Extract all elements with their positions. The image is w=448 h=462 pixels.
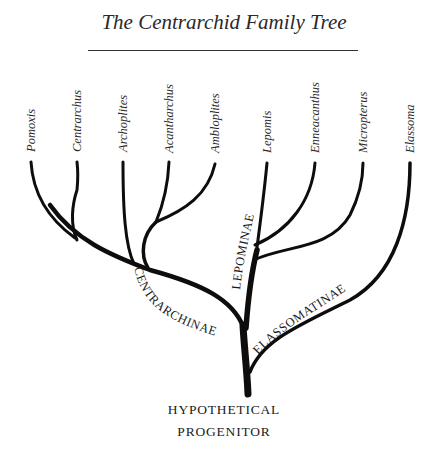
- branch-archoplites: [123, 162, 134, 264]
- subfamily-labels: CENTRARCHINAE LEPOMINAE ELASSOMATINAE: [131, 212, 348, 357]
- taxon-label-archoplites: Archoplites: [116, 95, 130, 153]
- root-label-line1: HYPOTHETICAL: [0, 402, 448, 418]
- lepominae-stem: [246, 250, 257, 328]
- tree-branches: [31, 162, 410, 394]
- taxon-label-acantharchus: Acantharchus: [162, 84, 176, 154]
- taxon-label-micropterus: Micropterus: [356, 92, 370, 154]
- taxon-label-enneacanthus: Enneacanthus: [308, 82, 322, 154]
- taxon-label-centrarchus: Centrarchus: [70, 90, 84, 152]
- trunk-branch: [243, 325, 248, 394]
- branch-acantharchus: [156, 162, 169, 222]
- branch-centrarchus: [72, 162, 77, 240]
- subfamily-label-elassomatinae: ELASSOMATINAE: [250, 281, 348, 357]
- root-label-line2: PROGENITOR: [0, 424, 448, 440]
- taxon-labels: Pomoxis Centrarchus Archoplites Acanthar…: [24, 82, 417, 154]
- phylogenetic-tree: Pomoxis Centrarchus Archoplites Acanthar…: [0, 0, 448, 462]
- branch-acantharchus-ambloplites-stem: [143, 222, 156, 268]
- taxon-label-ambloplites: Ambloplites: [208, 93, 222, 154]
- branch-micropterus: [254, 163, 363, 260]
- taxon-label-pomoxis: Pomoxis: [24, 109, 38, 153]
- taxon-label-elassoma: Elassoma: [403, 104, 417, 154]
- taxon-label-lepomis: Lepomis: [260, 111, 274, 155]
